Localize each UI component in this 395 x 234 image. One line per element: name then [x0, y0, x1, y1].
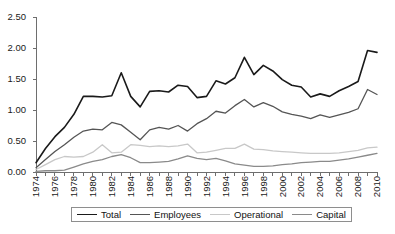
x-axis-tick-label: 2002 — [295, 176, 307, 208]
legend-label: Total — [101, 210, 121, 220]
legend-swatch-line-icon — [292, 214, 312, 215]
series-line-total — [36, 50, 377, 162]
x-axis-tick-label: 1996 — [238, 176, 250, 208]
legend-item-capital[interactable]: Capital — [292, 210, 346, 220]
series-line-capital — [36, 153, 377, 171]
legend-item-total[interactable]: Total — [77, 210, 121, 220]
legend-label: Operational — [234, 210, 283, 220]
legend-swatch-line-icon — [77, 214, 97, 215]
chart-legend: TotalEmployeesOperationalCapital — [71, 207, 352, 222]
x-axis-tick-label: 2006 — [333, 176, 345, 208]
x-axis-tick-label: 1990 — [182, 176, 194, 208]
legend-swatch-line-icon — [210, 214, 230, 215]
x-axis-tick-label: 1976 — [49, 176, 61, 208]
x-axis-tick-label: 1984 — [125, 176, 137, 208]
x-axis-tick-label: 1998 — [257, 176, 269, 208]
x-axis-tick-label: 2008 — [352, 176, 364, 208]
x-axis-tick-label: 2010 — [371, 176, 383, 208]
legend-label: Employees — [154, 210, 201, 220]
x-axis-tick-label: 1994 — [219, 176, 231, 208]
x-axis-tick-label: 1974 — [30, 176, 42, 208]
x-axis-tick-labels: 1974197619781980198219841986198819901992… — [36, 176, 377, 210]
x-axis-tick-label: 1982 — [106, 176, 118, 208]
chart-figure: 0.000.501.001.502.002.50 197419761978198… — [0, 0, 395, 234]
x-axis-tick-label: 1986 — [144, 176, 156, 208]
x-axis-tick-label: 1992 — [201, 176, 213, 208]
series-line-operational — [36, 144, 377, 169]
legend-swatch-line-icon — [130, 214, 150, 215]
x-axis-tick-label: 2000 — [276, 176, 288, 208]
legend-item-employees[interactable]: Employees — [130, 210, 201, 220]
x-axis-tick-label: 2004 — [314, 176, 326, 208]
series-line-employees — [36, 90, 377, 168]
x-axis-tick-label: 1978 — [68, 176, 80, 208]
x-axis-tick-label: 1988 — [163, 176, 175, 208]
legend-item-operational[interactable]: Operational — [210, 210, 283, 220]
legend-label: Capital — [316, 210, 346, 220]
x-axis-tick-label: 1980 — [87, 176, 99, 208]
